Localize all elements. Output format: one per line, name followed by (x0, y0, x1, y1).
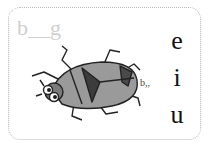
sound-mark: b,, (140, 77, 150, 88)
option-e[interactable]: e (167, 26, 187, 56)
bug-illustration: b,, (22, 42, 162, 127)
option-u[interactable]: u (167, 100, 187, 130)
option-i[interactable]: i (167, 63, 187, 93)
word-prompt: b__g (17, 15, 61, 41)
